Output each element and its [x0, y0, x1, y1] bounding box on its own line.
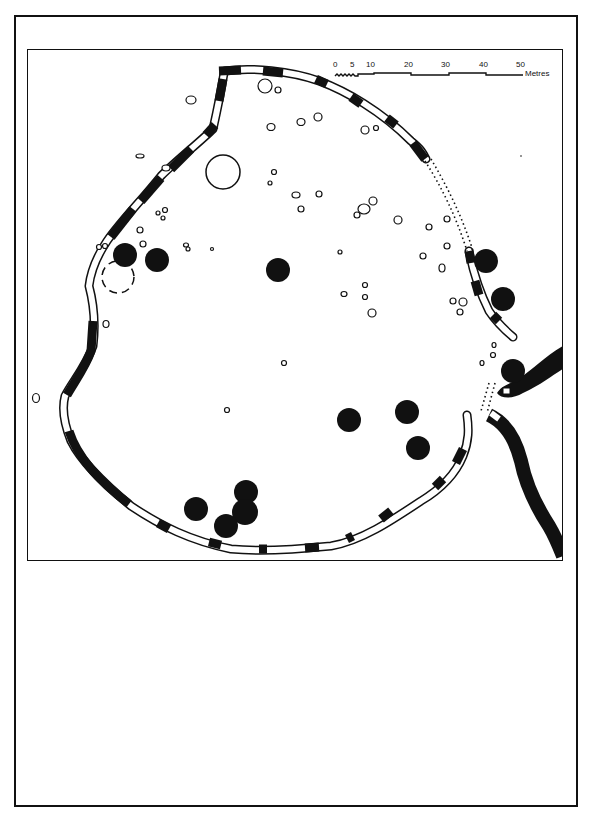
rampart-solid-segments: [67, 70, 463, 549]
site-plan-map: 0 5 10 20 30 40 50 Metres: [27, 49, 563, 561]
hut-circles: [113, 243, 525, 538]
site-plan-drawing: [28, 50, 563, 561]
scale-tick-20: 20: [404, 60, 413, 69]
scale-tick-0: 0: [333, 60, 337, 69]
scale-tick-10: 10: [366, 60, 375, 69]
scale-tick-5: 5: [350, 60, 354, 69]
scale-tick-30: 30: [441, 60, 450, 69]
conjectured-dotted-lines: [425, 159, 495, 413]
scale-tick-50: 50: [516, 60, 525, 69]
pits: [33, 79, 497, 413]
outer-bank-lower: [489, 413, 563, 556]
scale-tick-40: 40: [479, 60, 488, 69]
rampart-wall: [63, 69, 468, 550]
scale-bar: [335, 73, 523, 76]
large-open-circle: [206, 155, 240, 189]
scale-unit-label: Metres: [525, 69, 549, 78]
caption-area: [16, 562, 576, 805]
